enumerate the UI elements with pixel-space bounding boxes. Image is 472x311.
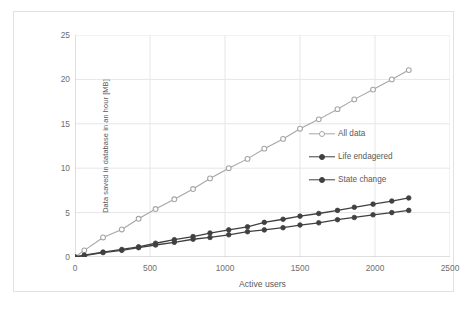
data-point-marker <box>262 220 267 225</box>
legend-item[interactable]: All data <box>309 122 429 145</box>
chart-legend: All dataLife endageredState change <box>309 122 429 191</box>
data-point-marker <box>101 250 106 255</box>
legend-marker-icon <box>309 151 335 163</box>
data-point-marker <box>389 77 394 82</box>
y-tick-label: 15 <box>61 119 70 129</box>
data-point-marker <box>153 243 158 248</box>
data-point-marker <box>281 137 286 142</box>
data-point-marker <box>371 202 376 207</box>
data-point-marker <box>262 228 267 233</box>
legend-marker-icon <box>309 128 335 140</box>
legend-marker-icon <box>309 174 335 186</box>
data-point-marker <box>191 187 196 192</box>
x-tick-label: 500 <box>143 263 157 273</box>
data-point-marker <box>262 146 267 151</box>
legend-item[interactable]: Life endagered <box>309 145 429 168</box>
x-tick-label: 1000 <box>216 263 235 273</box>
data-point-marker <box>245 156 250 161</box>
data-point-marker <box>390 210 395 215</box>
data-point-marker <box>352 205 357 210</box>
chart-frame: Data saved in database in an hour [MB] 0… <box>13 11 454 292</box>
data-point-marker <box>136 216 141 221</box>
data-point-marker <box>191 237 196 242</box>
x-axis-title: Active users <box>239 279 286 289</box>
data-point-marker <box>371 213 376 218</box>
data-point-marker <box>226 166 231 171</box>
y-axis-title: Data saved in database in an hour [MB] <box>101 79 110 213</box>
data-point-marker <box>281 225 286 230</box>
data-point-marker <box>406 208 411 213</box>
data-point-marker <box>226 228 231 233</box>
data-point-marker <box>226 233 231 238</box>
x-tick-label: 2000 <box>366 263 385 273</box>
data-point-marker <box>208 235 213 240</box>
data-point-marker <box>316 221 321 226</box>
data-point-marker <box>335 217 340 222</box>
data-point-marker <box>208 176 213 181</box>
data-point-marker <box>82 253 87 257</box>
y-tick-label: 20 <box>61 74 70 84</box>
y-tick-label: 0 <box>65 252 70 262</box>
data-point-marker <box>101 235 106 240</box>
data-point-marker <box>119 227 124 232</box>
data-point-marker <box>406 196 411 201</box>
y-tick-label: 5 <box>65 208 70 218</box>
data-point-marker <box>136 245 141 250</box>
series-2 <box>75 196 411 257</box>
chart-container: Data saved in database in an hour [MB] 0… <box>0 0 472 311</box>
x-tick-label: 1500 <box>291 263 310 273</box>
data-point-marker <box>245 225 250 230</box>
data-point-marker <box>298 223 303 228</box>
data-point-marker <box>208 231 213 236</box>
data-point-marker <box>153 207 158 212</box>
legend-label: Life endagered <box>338 152 393 161</box>
x-tick-label: 0 <box>73 263 78 273</box>
data-point-marker <box>316 211 321 216</box>
data-point-marker <box>172 240 177 245</box>
series-line <box>75 210 409 257</box>
data-point-marker <box>245 229 250 234</box>
data-point-marker <box>335 208 340 213</box>
legend-item[interactable]: State change <box>309 168 429 191</box>
data-point-marker <box>298 126 303 131</box>
legend-label: State change <box>338 175 386 184</box>
x-tick-label: 2500 <box>441 263 460 273</box>
data-point-marker <box>352 97 357 102</box>
y-tick-label: 25 <box>61 30 70 40</box>
data-point-marker <box>406 68 411 73</box>
data-point-marker <box>371 87 376 92</box>
data-point-marker <box>335 107 340 112</box>
data-point-marker <box>390 199 395 204</box>
data-point-marker <box>120 248 125 253</box>
legend-label: All data <box>338 129 365 138</box>
data-point-marker <box>298 214 303 219</box>
data-point-marker <box>281 217 286 222</box>
data-point-marker <box>82 248 87 253</box>
y-tick-label: 10 <box>61 163 70 173</box>
data-point-marker <box>172 197 177 202</box>
data-point-marker <box>352 215 357 220</box>
series-3 <box>75 208 411 257</box>
